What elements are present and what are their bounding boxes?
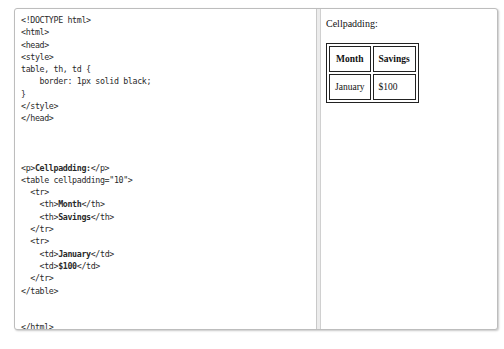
code-line-blank xyxy=(21,309,316,321)
code-line: <html> xyxy=(21,26,316,38)
code-line: </head> xyxy=(21,112,316,124)
table-cell-savings: $100 xyxy=(373,74,416,100)
code-editor[interactable]: <!DOCTYPE html><html><head><style>table,… xyxy=(15,9,316,329)
code-content: Savings xyxy=(58,212,91,222)
code-line-blank xyxy=(21,125,316,137)
code-content: Cellpadding: xyxy=(35,163,91,173)
table-header-month: Month xyxy=(329,46,371,72)
code-content: $100 xyxy=(58,261,77,271)
code-line: <!DOCTYPE html> xyxy=(21,14,316,26)
code-tag: <p> xyxy=(21,163,35,173)
code-line: </style> xyxy=(21,100,316,112)
table-header-savings: Savings xyxy=(373,46,416,72)
code-tag: <td> xyxy=(21,249,58,259)
tryit-editor-frame: <!DOCTYPE html><html><head><style>table,… xyxy=(14,8,498,330)
code-tag: <th> xyxy=(21,199,58,209)
code-line-blank xyxy=(21,297,316,309)
code-line: </tr> xyxy=(21,272,316,284)
code-line: <head> xyxy=(21,39,316,51)
code-tag: </th> xyxy=(81,199,104,209)
code-line: } xyxy=(21,88,316,100)
table-cell-month: January xyxy=(329,74,371,100)
code-line: <td>$100</td> xyxy=(21,260,316,272)
code-line: </tr> xyxy=(21,223,316,235)
code-content: January xyxy=(58,249,91,259)
code-line: border: 1px solid black; xyxy=(21,75,316,87)
code-line: table, th, td { xyxy=(21,63,316,75)
code-tag: </th> xyxy=(91,212,114,222)
code-line-blank xyxy=(21,137,316,149)
code-editor-panel[interactable]: <!DOCTYPE html><html><head><style>table,… xyxy=(15,9,317,329)
code-line: </html> xyxy=(21,321,316,329)
code-line: <th>Month</th> xyxy=(21,198,316,210)
panel-resize-divider[interactable] xyxy=(317,9,321,329)
table-row: January $100 xyxy=(329,74,416,100)
code-tag: </p> xyxy=(91,163,110,173)
code-tag: <th> xyxy=(21,212,58,222)
result-preview-panel: Cellpadding: Month Savings January $100 xyxy=(322,9,497,329)
code-line: <p>Cellpadding:</p> xyxy=(21,162,316,174)
code-line: <tr> xyxy=(21,186,316,198)
code-tag: </td> xyxy=(91,249,114,259)
code-line: <td>January</td> xyxy=(21,248,316,260)
code-line: <style> xyxy=(21,51,316,63)
code-line: <th>Savings</th> xyxy=(21,211,316,223)
code-line: </table> xyxy=(21,285,316,297)
code-tag: <td> xyxy=(21,261,58,271)
table-header-row: Month Savings xyxy=(329,46,416,72)
code-line-blank xyxy=(21,149,316,161)
result-table: Month Savings January $100 xyxy=(326,43,419,103)
code-line: <table cellpadding="10"> xyxy=(21,174,316,186)
code-line: <tr> xyxy=(21,235,316,247)
code-tag: </td> xyxy=(77,261,100,271)
code-content: Month xyxy=(58,199,81,209)
result-paragraph: Cellpadding: xyxy=(326,18,378,29)
